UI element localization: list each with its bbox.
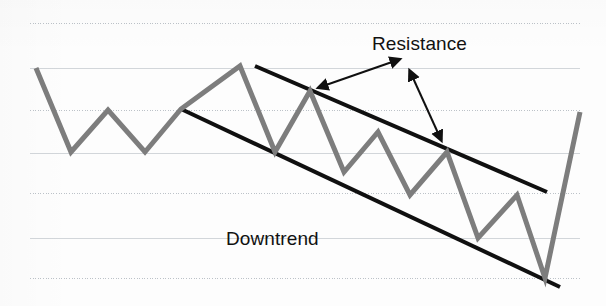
- descending-channel-chart: ResistanceDowntrend: [0, 0, 606, 306]
- resistance-label: Resistance: [372, 33, 467, 54]
- downtrend-label: Downtrend: [226, 228, 319, 249]
- chart-canvas: ResistanceDowntrend: [0, 0, 606, 306]
